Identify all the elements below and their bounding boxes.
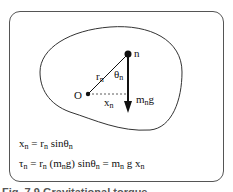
- figure-caption: Fig. 7.9 Gravitational torque: [2, 186, 147, 192]
- label-force-mng: mng: [136, 93, 155, 107]
- particle-n-dot: [125, 51, 132, 58]
- label-n: n: [134, 47, 140, 59]
- label-r-n: rn: [96, 70, 104, 84]
- label-x-n: xn: [104, 96, 114, 110]
- equation-lever-arm: xn = rn sinθn: [19, 137, 73, 151]
- label-origin: O: [74, 89, 82, 101]
- equation-torque: τn = rn (mng) sinθn = mn g xn: [19, 157, 145, 171]
- label-theta-n: θn: [114, 68, 123, 82]
- body-outline: [40, 27, 182, 131]
- origin-dot: [86, 92, 90, 96]
- arrowhead-icon: [124, 101, 132, 113]
